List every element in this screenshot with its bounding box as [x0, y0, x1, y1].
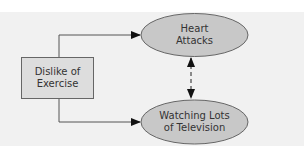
node-watching-television-label: Watching Lots of Television [141, 110, 248, 134]
node-heart-line-2: Attacks [141, 35, 248, 47]
node-dislike-line-1: Dislike of [21, 66, 94, 78]
node-heart-line-1: Heart [141, 23, 248, 35]
node-dislike-of-exercise-label: Dislike of Exercise [21, 66, 94, 90]
edge-dislike-to-television [59, 98, 140, 122]
edge-dislike-to-heart-attacks [59, 35, 140, 57]
node-dislike-line-2: Exercise [21, 78, 94, 90]
node-heart-attacks-label: Heart Attacks [141, 23, 248, 47]
node-tv-line-1: Watching Lots [141, 110, 248, 122]
node-tv-line-2: of Television [141, 122, 248, 134]
